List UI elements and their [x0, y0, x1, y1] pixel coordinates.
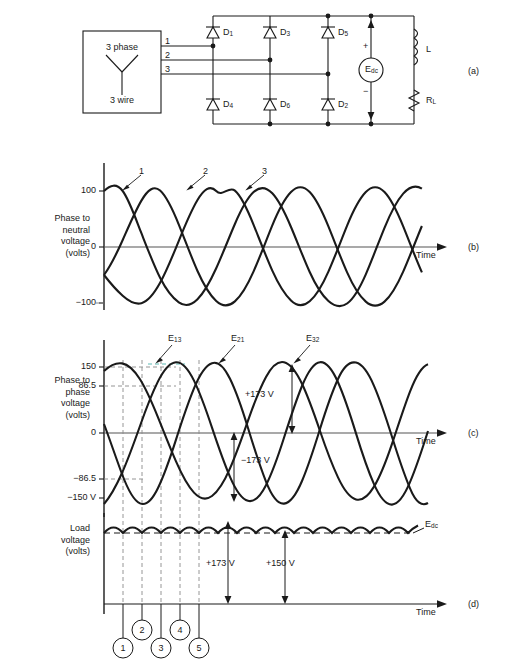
- panel-d-waveform: [104, 513, 447, 658]
- panel-b-ytick-0: 0: [58, 241, 96, 252]
- panel-c-pointers: [157, 345, 310, 362]
- junction-dots: [211, 14, 374, 127]
- panel-b-curve-label-1: 1: [139, 166, 144, 177]
- panel-d-id: (d): [468, 599, 479, 609]
- phase-lines: [161, 46, 328, 74]
- panel-c-x-axis-label: Time: [416, 436, 436, 447]
- diode-d1: [206, 27, 220, 38]
- panel-b-axis-label: Phase to neutral voltage (volts): [14, 213, 90, 259]
- panel-d-annotation-plus150: +150 V: [266, 558, 295, 569]
- panel-b-x-arrowhead: [437, 243, 447, 251]
- panel-c-curve-label-e32: E32: [306, 333, 319, 345]
- phase-line-2-label: 2: [165, 50, 170, 61]
- panel-b-ytick-minus100: −100: [52, 297, 96, 308]
- phase-line-3-label: 3: [165, 64, 170, 75]
- edc-plus-sign: +: [363, 41, 368, 52]
- panel-c-curve-label-e13: E13: [168, 333, 181, 345]
- panel-c-ytick-150: 150: [58, 361, 96, 372]
- panel-a-id: (a): [468, 66, 479, 76]
- bridge-legs: [213, 16, 414, 124]
- panel-b-id: (b): [468, 242, 479, 252]
- load-voltage-ripple: [104, 526, 418, 534]
- diode-d1-label: D1: [223, 27, 233, 39]
- panel-c-ytick-minus150: −150 V: [34, 492, 96, 503]
- panel-c-x-arrowhead: [437, 429, 447, 437]
- panel-b-ticks: [99, 191, 104, 303]
- inductor-label: L: [426, 44, 431, 55]
- edc-minus-sign: −: [363, 86, 368, 97]
- interval-marker-label-3: 3: [151, 643, 171, 654]
- panel-c-ytick-86-5: 86.5: [52, 380, 96, 391]
- interval-marker-label-2: 2: [132, 625, 152, 636]
- panel-d-annotation-plus173: +173 V: [206, 558, 235, 569]
- panel-d-edc-label: Edc: [425, 519, 438, 531]
- diode-d4: [206, 99, 220, 110]
- interval-marker-label-4: 4: [170, 625, 190, 636]
- panel-c-ytick-minus86-5: −86.5: [44, 473, 96, 484]
- panel-c-ticks: [99, 367, 104, 498]
- edc-leader-line: [413, 528, 424, 533]
- interval-marker-label-1: 1: [113, 643, 133, 654]
- panel-b-ytick-100: 100: [58, 185, 96, 196]
- panel-c-ytick-0: 0: [58, 427, 96, 438]
- panel-c-annotation-minus173: −173 V: [241, 455, 270, 466]
- panel-b-x-axis-label: Time: [416, 250, 436, 261]
- panel-b-curve-label-3: 3: [262, 166, 267, 177]
- panel-c-curve-label-e21: E21: [231, 333, 244, 345]
- source-bottom-label: 3 wire: [88, 95, 156, 106]
- diode-d6-label: D6: [280, 99, 290, 111]
- panel-d-x-arrowhead: [437, 600, 447, 608]
- panel-d-x-axis-label: Time: [416, 607, 436, 618]
- diode-d5: [321, 27, 335, 38]
- panel-b-curve-label-2: 2: [203, 166, 208, 177]
- diode-d4-label: D4: [223, 99, 233, 111]
- panel-b-pointers: [124, 175, 264, 189]
- panel-c-id: (c): [468, 428, 479, 438]
- wye-three-phase-icon: [106, 55, 138, 95]
- panel-c-annotation-plus173: +173 V: [245, 389, 274, 400]
- diode-d3-label: D3: [280, 27, 290, 39]
- phase-line-1-label: 1: [165, 36, 170, 47]
- interval-marker-label-5: 5: [189, 643, 209, 654]
- diode-d3: [263, 27, 277, 38]
- source-top-label: 3 phase: [88, 42, 156, 53]
- diode-d6: [263, 99, 277, 110]
- edc-source-label: Edc: [362, 64, 381, 76]
- panel-b-waveform: [96, 163, 447, 310]
- panel-d-axis-label: Load voltage (volts): [14, 523, 90, 558]
- diode-d2-label: D2: [338, 99, 348, 111]
- diode-d5-label: D5: [338, 27, 348, 39]
- diode-d2: [321, 99, 335, 110]
- resistor-label: RL: [426, 95, 436, 107]
